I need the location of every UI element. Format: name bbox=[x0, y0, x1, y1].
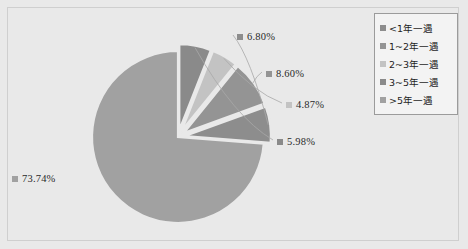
data-label-value-2: 8.60% bbox=[276, 68, 304, 79]
data-label-4: 5.98% bbox=[277, 136, 315, 147]
data-label-1: 6.80% bbox=[237, 31, 275, 42]
data-label-value-1: 6.80% bbox=[247, 31, 275, 42]
data-label-0: 73.74% bbox=[12, 173, 56, 184]
legend-swatch-4 bbox=[380, 97, 386, 103]
legend-swatch-1 bbox=[380, 43, 386, 49]
chart-screenshot: 73.74% 6.80% 8.60% 4.87% 5.98% <1年一遇 1~2… bbox=[0, 0, 468, 249]
legend-label-2: 2~3年一遇 bbox=[389, 57, 439, 71]
legend-item-1: 1~2年一遇 bbox=[380, 37, 453, 55]
data-label-2: 8.60% bbox=[266, 68, 304, 79]
data-label-swatch-3 bbox=[286, 102, 292, 108]
legend-item-4: >5年一遇 bbox=[380, 91, 453, 109]
data-label-swatch-4 bbox=[277, 139, 283, 145]
data-label-value-4: 5.98% bbox=[287, 136, 315, 147]
legend-label-4: >5年一遇 bbox=[389, 93, 433, 107]
legend-item-3: 3~5年一遇 bbox=[380, 73, 453, 91]
legend-label-0: <1年一遇 bbox=[389, 21, 433, 35]
legend-swatch-2 bbox=[380, 61, 386, 67]
legend-item-2: 2~3年一遇 bbox=[380, 55, 453, 73]
data-label-value-3: 4.87% bbox=[296, 99, 324, 110]
data-label-swatch-0 bbox=[12, 176, 18, 182]
legend-swatch-3 bbox=[380, 79, 386, 85]
chart-legend: <1年一遇 1~2年一遇 2~3年一遇 3~5年一遇 >5年一遇 bbox=[374, 13, 458, 115]
data-label-value-0: 73.74% bbox=[22, 173, 56, 184]
legend-item-0: <1年一遇 bbox=[380, 19, 453, 37]
leader-line-2 bbox=[252, 72, 262, 84]
pie-slices bbox=[92, 44, 271, 223]
legend-label-1: 1~2年一遇 bbox=[389, 39, 439, 53]
data-label-swatch-1 bbox=[237, 34, 243, 40]
data-label-3: 4.87% bbox=[286, 99, 324, 110]
data-label-swatch-2 bbox=[266, 71, 272, 77]
legend-swatch-0 bbox=[380, 25, 386, 31]
legend-label-3: 3~5年一遇 bbox=[389, 75, 439, 89]
